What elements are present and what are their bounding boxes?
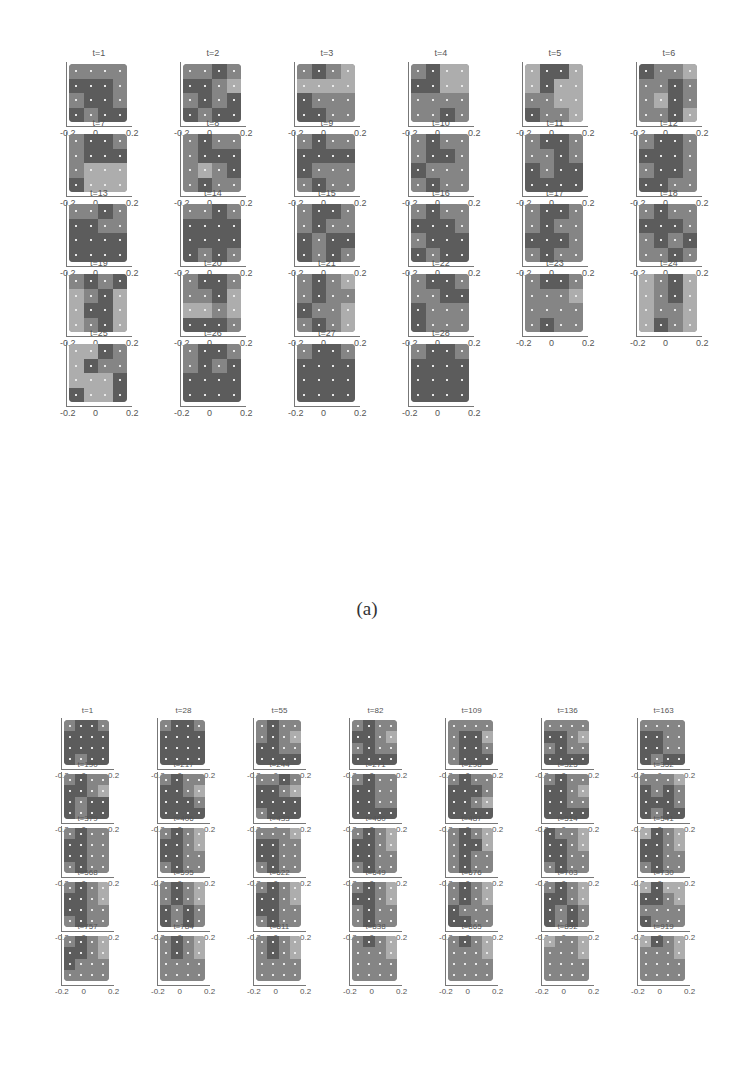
x-tick-label: -0.2 [151,987,165,996]
heatmap-image [64,774,109,819]
x-tick-label: 0 [562,987,566,996]
x-tick-label: 0 [178,987,182,996]
subplot-title: t=757 [77,922,97,931]
y-axis [61,934,62,985]
y-axis [61,826,62,877]
x-tick-label: 0.2 [684,771,695,780]
heatmap-image [256,936,301,981]
x-tick-label: 0.2 [588,771,599,780]
y-axis [61,880,62,931]
heatmap-image [544,720,589,765]
x-tick-label: 0.2 [396,771,407,780]
x-tick-label: 0 [82,987,86,996]
subplot-title: t=838 [365,922,385,931]
heatmap-image [352,720,397,765]
x-tick-label: 0.2 [396,879,407,888]
subplot-title: t=676 [461,868,481,877]
subplot-title: t=703 [557,868,577,877]
subplot-title: t=325 [557,760,577,769]
heatmap-image [640,828,685,873]
y-axis [157,826,158,877]
heatmap-image [160,720,205,765]
subplot-title: t=541 [653,814,673,823]
x-tick-label: 0.2 [204,933,215,942]
x-axis [157,985,210,986]
heatmap-image [256,720,301,765]
subplot-title: t=514 [557,814,577,823]
heatmap-image [256,828,301,873]
x-tick-label: 0.2 [492,771,503,780]
subplot-title: t=595 [173,868,193,877]
x-axis [445,931,498,932]
subplot-title: t=649 [365,868,385,877]
y-axis [541,718,542,769]
heatmap-image [448,882,493,927]
subplot-title: t=244 [269,760,289,769]
x-axis [253,931,306,932]
subplot-title: t=460 [365,814,385,823]
heatmap-image [640,720,685,765]
y-axis [445,826,446,877]
x-tick-label: 0.2 [396,825,407,834]
x-tick-label: 0.2 [588,825,599,834]
heatmap-image [544,882,589,927]
y-axis [157,880,158,931]
x-tick-label: -0.2 [55,987,69,996]
x-tick-label: 0.2 [108,933,119,942]
y-axis [61,718,62,769]
x-tick-label: 0.2 [492,879,503,888]
subplot-title: t=865 [461,922,481,931]
x-axis [349,823,402,824]
x-axis [61,877,114,878]
x-axis [349,769,402,770]
x-tick-label: 0.2 [204,987,215,996]
heatmap-image [160,774,205,819]
x-tick-label: 0.2 [300,933,311,942]
subplot-title: t=730 [653,868,673,877]
y-axis [445,718,446,769]
x-axis [349,985,402,986]
heatmap-image [64,720,109,765]
subplot-title: t=82 [368,706,384,715]
figure-b: t=10.20-0.2-0.200.2t=280.20-0.2-0.200.2t… [0,0,735,1080]
x-axis [253,985,306,986]
subplot-title: t=1 [82,706,93,715]
x-axis [637,823,690,824]
heatmap-image [64,828,109,873]
x-tick-label: 0.2 [204,771,215,780]
x-axis [445,985,498,986]
heatmap-image [352,774,397,819]
heatmap-image [352,936,397,981]
y-axis [349,826,350,877]
x-axis [637,931,690,932]
x-axis [61,823,114,824]
x-tick-label: 0.2 [396,987,407,996]
heatmap-image [160,882,205,927]
y-axis [253,826,254,877]
subplot-title: t=190 [77,760,97,769]
x-tick-label: 0 [274,987,278,996]
heatmap-image [448,828,493,873]
subplot-title: t=811 [270,922,290,931]
x-tick-label: 0.2 [396,933,407,942]
heatmap-image [448,720,493,765]
subplot-title: t=487 [461,814,481,823]
heatmap-image [160,936,205,981]
x-axis [541,931,594,932]
x-tick-label: 0.2 [108,825,119,834]
x-axis [61,769,114,770]
heatmap-image [448,936,493,981]
y-axis [637,718,638,769]
y-axis [349,772,350,823]
subplot-title: t=379 [77,814,97,823]
y-axis [541,934,542,985]
heatmap-image [64,882,109,927]
heatmap-image [448,774,493,819]
y-axis [445,880,446,931]
x-tick-label: 0.2 [204,879,215,888]
heatmap-image [544,774,589,819]
y-axis [253,772,254,823]
subplot-title: t=568 [77,868,97,877]
heatmap-image [352,882,397,927]
x-tick-label: 0 [466,987,470,996]
